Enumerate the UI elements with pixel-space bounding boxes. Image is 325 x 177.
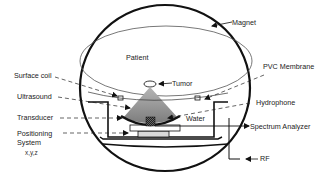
mr-guided-ultrasound-diagram: Magnet Patient Tumor Surface coil PVC Me…	[0, 0, 325, 177]
label-tumor: Tumor	[172, 79, 193, 88]
rf-cable	[229, 118, 240, 159]
label-ultrasound: Ultrasound	[17, 92, 52, 101]
label-positioning: Positioning	[17, 129, 52, 138]
label-rf: RF	[260, 154, 270, 163]
label-spectrum-analyzer: Spectrum Analyzer	[250, 122, 311, 131]
arrow-tumor	[159, 83, 172, 84]
patient-outline	[80, 26, 252, 96]
magnet-bore	[80, 5, 250, 171]
label-positioning-line2: System	[17, 138, 41, 147]
label-positioning-axes: x,y,z	[25, 149, 38, 157]
label-pvc-membrane: PVC Membrane	[263, 62, 314, 71]
label-patient: Patient	[126, 53, 148, 62]
leader-hydrophone	[168, 103, 250, 118]
label-transducer: Transducer	[17, 113, 54, 122]
label-water: Water	[186, 114, 206, 123]
label-magnet: Magnet	[232, 18, 256, 27]
transducer-element	[146, 117, 155, 126]
label-surface-coil: Surface coil	[14, 71, 52, 80]
label-hydrophone: Hydrophone	[256, 98, 295, 107]
positioning-stage	[138, 131, 169, 137]
outer-cradle	[103, 144, 228, 147]
tumor	[144, 81, 156, 87]
